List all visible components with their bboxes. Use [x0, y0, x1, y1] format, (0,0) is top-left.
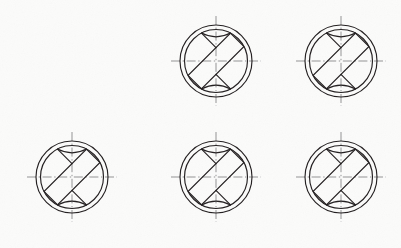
lower-flank-end-face	[341, 74, 355, 88]
drawing-sheet	[0, 0, 401, 248]
lower-flank-end-face	[341, 190, 355, 204]
lower-flank-end-face	[216, 74, 230, 88]
lower-flank-end-face	[216, 190, 230, 204]
upper-flank-end-face	[327, 33, 341, 47]
figure-view-5	[154, 115, 278, 239]
upper-flank-end-face	[58, 149, 72, 163]
upper-flank-end-face	[202, 149, 216, 163]
figure-view-3	[279, 0, 401, 123]
upper-flank-end-face	[327, 149, 341, 163]
lower-flank-end-face	[72, 190, 86, 204]
figure-view-6	[279, 115, 401, 239]
figure-view-2	[154, 0, 278, 123]
figure-view-4	[10, 115, 134, 239]
upper-flank-end-face	[202, 33, 216, 47]
